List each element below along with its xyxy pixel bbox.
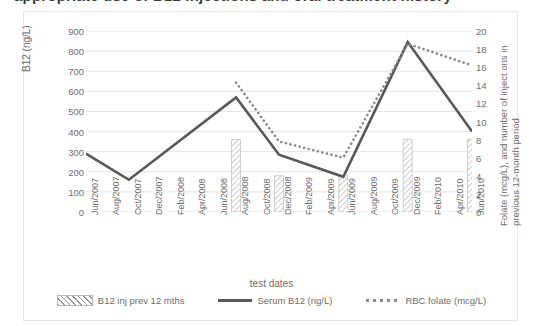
y-axis-right-tick: 6 [476,152,481,163]
chart-screenshot: appropriate use of B12 injections and or… [0,0,537,326]
y-axis-left-title: B12 (ng/L) [21,25,32,72]
y-axis-right-tick: 18 [476,44,487,55]
legend-item[interactable]: RBC folate (mcg/L) [366,295,486,306]
x-axis-tick: Aug/2007 [111,176,121,215]
page-title: appropriate use of B12 injections and or… [14,0,534,4]
x-axis-tick: Feb/2010 [433,177,443,215]
legend-item[interactable]: Serum B12 (ng/L) [218,295,332,306]
dotted-line-swatch [366,299,400,302]
y-axis-left-tick: 800 [68,46,84,57]
chart-container: B12 (ng/L) 9008007006005004003002001000 … [23,11,518,321]
y-axis-right-tick: 10 [476,116,487,127]
y-axis-left-tick: 500 [68,106,84,117]
x-axis-tick: Jun/2010 [476,178,486,215]
x-axis-tick: Apr/2010 [455,178,465,215]
y-axis-left-tick: 200 [68,166,84,177]
x-axis-tick: Apr/2009 [326,178,336,215]
x-axis-tick: Oct/2008 [262,178,272,215]
legend-label: B12 inj prev 12 mths [98,295,185,306]
y-axis-left-tick: 300 [68,146,84,157]
x-axis-tick: Jun/2007 [90,178,100,215]
x-axis-tick: Jun/2008 [219,178,229,215]
legend-item[interactable]: B12 inj prev 12 mths [57,295,185,306]
legend-label: RBC folate (mcg/L) [405,295,486,306]
y-axis-left-ticks: 9008007006005004003002001000 [44,31,84,212]
y-axis-right-tick: 20 [476,26,487,37]
x-axis-tick: Aug/2008 [240,176,250,215]
y-axis-left-tick: 0 [79,207,84,218]
y-axis-left-tick: 900 [68,26,84,37]
y-axis-right-tick: 12 [476,98,487,109]
chart-legend: B12 inj prev 12 mthsSerum B12 (ng/L)RBC … [24,295,519,306]
y-axis-left-tick: 400 [68,126,84,137]
line-rbc-folate [236,44,472,158]
y-axis-left-tick: 700 [68,66,84,77]
legend-label: Serum B12 (ng/L) [257,295,332,306]
y-axis-left-tick: 600 [68,86,84,97]
y-axis-right-tick: 8 [476,134,481,145]
x-axis-tick: Dec/2007 [154,176,164,215]
page-title-clipped: appropriate use of B12 injections and or… [0,0,537,10]
bar-injections [403,140,412,212]
y-axis-right-tick: 14 [476,80,487,91]
x-axis-tick: Apr/2008 [197,178,207,215]
y-axis-right-tick: 16 [476,62,487,73]
x-axis-tick: Jun/2009 [347,178,357,215]
hatched-bar-swatch [57,295,93,306]
solid-line-swatch [218,299,252,302]
y-axis-left-tick: 100 [68,186,84,197]
x-axis-tick: Aug/2009 [369,176,379,215]
y-axis-right-title: Folate (mcg/L), and number of inject ons… [496,0,536,12]
x-axis-tick: Dec/2008 [283,176,293,215]
x-axis-title: test dates [24,278,519,289]
x-axis-ticks: Jun/2007Aug/2007Oct/2007Dec/2007Feb/2008… [86,215,472,275]
x-axis-tick: Feb/2009 [304,177,314,215]
x-axis-tick: Feb/2008 [176,177,186,215]
x-axis-tick: Oct/2007 [133,178,143,215]
bar-injections [468,140,473,212]
x-axis-tick: Oct/2009 [390,178,400,215]
x-axis-tick: Dec/2009 [412,176,422,215]
